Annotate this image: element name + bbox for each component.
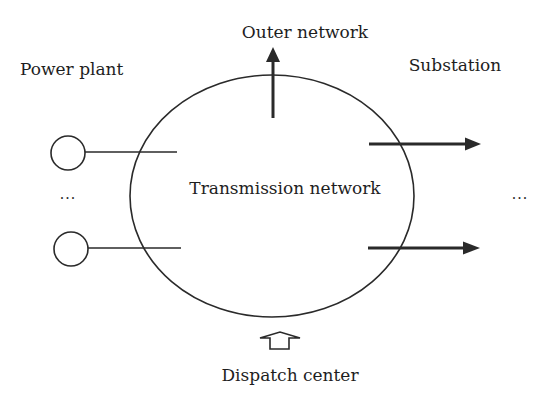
substation-label: Substation [409,55,502,75]
power-plant-generator-1 [51,136,177,170]
power-system-diagram: Transmission network Outer network Power… [0,0,550,405]
dispatch-center-arrow [260,332,300,349]
generator-icon [51,136,85,170]
substation-ellipsis: ... [512,186,528,202]
substation-arrow-2 [368,242,480,255]
power-plant-generator-2 [54,232,181,266]
outer-network-label: Outer network [242,22,369,42]
transmission-network-label: Transmission network [189,178,381,198]
dispatch-center-label: Dispatch center [221,365,359,385]
power-plant-label: Power plant [20,59,124,79]
outer-network-arrow [266,47,280,118]
power-plant-ellipsis: ... [60,186,76,202]
generator-icon [54,232,88,266]
substation-arrow-1 [369,138,481,151]
